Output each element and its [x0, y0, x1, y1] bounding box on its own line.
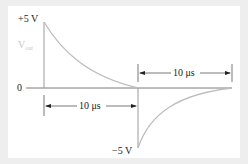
- label-zero: 0: [17, 82, 22, 93]
- waveform-diagram: +5 V Vout 0 10 μs 10 μs −5 V: [0, 0, 248, 164]
- arrow-right-icon: [225, 71, 231, 75]
- arrow-right-icon: [131, 104, 137, 108]
- arrow-left-icon: [139, 71, 145, 75]
- label-vmin: −5 V: [112, 145, 133, 156]
- negative-decay-curve: [138, 88, 232, 148]
- label-duration-top: 10 μs: [173, 67, 195, 78]
- positive-decay-curve: [44, 22, 138, 88]
- arrow-left-icon: [45, 104, 51, 108]
- label-duration-bottom: 10 μs: [79, 100, 101, 111]
- label-vmax: +5 V: [18, 13, 39, 24]
- label-signal: Vout: [18, 39, 33, 51]
